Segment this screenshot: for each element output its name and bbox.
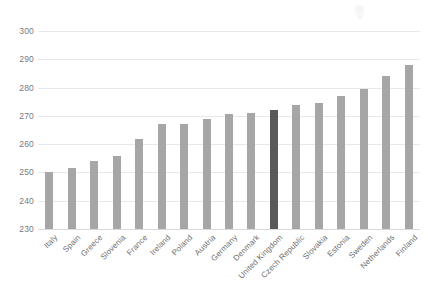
bar-chart: 230240250260270280290300 ItalySpainGreec…	[0, 0, 430, 296]
x-axis-category-labels: ItalySpainGreeceSloveniaFranceIrelandPol…	[0, 0, 430, 296]
